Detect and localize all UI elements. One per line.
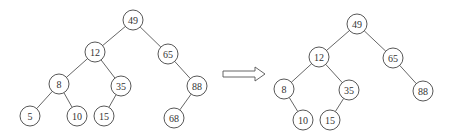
node-label: 15 [325,115,335,126]
tree-node-8: 8 [49,74,69,94]
tree-node-88: 88 [413,81,433,101]
node-label: 68 [169,113,179,124]
tree-node-49: 49 [347,14,367,34]
node-label: 12 [90,47,100,58]
tree-diagram: 491265835885101568 491265835881015 [0,0,449,138]
tree-edge [400,65,417,83]
tree-edge [37,91,53,108]
tree-edge [364,31,385,51]
tree-node-49: 49 [123,10,143,30]
tree-edge [180,94,191,110]
tree-edge [64,93,72,108]
tree-node-10: 10 [293,110,313,130]
tree-edge [335,98,343,111]
node-label: 88 [418,86,428,97]
tree-node-12: 12 [85,42,105,62]
node-label: 5 [28,111,33,122]
node-label: 65 [388,53,398,64]
node-label: 15 [99,111,109,122]
tree-edge [291,64,311,83]
tree-edge [175,61,191,78]
tree-node-15: 15 [320,110,340,130]
tree-edge [103,26,126,45]
node-label: 35 [116,81,126,92]
node-label: 35 [344,85,354,96]
node-label: 10 [298,115,308,126]
tree-node-68: 68 [164,108,184,128]
tree-edge [101,60,115,78]
node-label: 49 [352,19,362,30]
tree-edge [109,95,116,108]
tree-node-35: 35 [339,80,359,100]
tree-after: 491265835881015 [274,14,433,130]
tree-edge [66,59,87,78]
transform-arrow-icon [223,67,265,81]
tree-edge [140,27,161,47]
tree-node-15: 15 [94,106,114,126]
tree-node-65: 65 [383,48,403,68]
node-label: 10 [72,111,82,122]
tree-before: 491265835885101568 [20,10,207,128]
tree-node-12: 12 [309,47,329,67]
tree-node-65: 65 [158,44,178,64]
tree-node-10: 10 [67,106,87,126]
node-label: 8 [282,84,287,95]
tree-edge [326,64,343,82]
tree-node-5: 5 [20,106,40,126]
node-label: 65 [163,49,173,60]
node-label: 8 [57,79,62,90]
node-label: 88 [192,81,202,92]
tree-edge [327,31,350,51]
node-label: 49 [128,15,138,26]
tree-node-35: 35 [111,76,131,96]
tree-node-88: 88 [187,76,207,96]
node-label: 12 [314,52,324,63]
tree-edge [289,98,298,112]
tree-node-8: 8 [274,79,294,99]
